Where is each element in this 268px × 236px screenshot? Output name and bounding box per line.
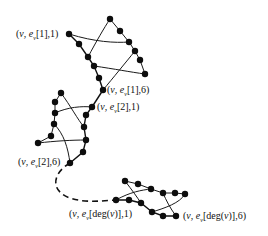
dashed-connector — [56, 163, 116, 201]
gadget-e2 — [35, 90, 95, 166]
label-top-start: (v, ev[1],1) — [16, 29, 58, 41]
label-top-end: (v, ev[1],6) — [107, 85, 149, 97]
gadget-e1-path — [69, 34, 103, 90]
label-mid-end: (v, ev[2],6) — [18, 157, 60, 169]
gadget-e1-side-b — [110, 19, 145, 74]
gadget-edeg-cross-4 — [163, 193, 176, 216]
gadget-e2-nodes — [35, 90, 95, 166]
gadget-e1-nodes — [66, 16, 148, 93]
gadget-e2-cross-1 — [61, 93, 84, 127]
gadget-edeg-cross-3 — [152, 194, 185, 212]
gadget-e1-cross-2 — [88, 19, 110, 57]
label-bottom-end: (v, ev[deg(v)],6) — [183, 211, 246, 223]
label-bottom-start: (v, ev[deg(v)],1) — [69, 209, 132, 221]
gadget-edeg-cross-1 — [116, 189, 151, 200]
label-mid-start: (v, ev[2],1) — [97, 102, 139, 114]
gadget-e1 — [66, 16, 148, 93]
gadget-e2-cross-4 — [38, 140, 86, 143]
